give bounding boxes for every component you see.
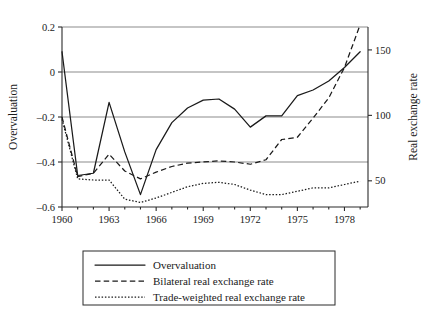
x-tick-label: 1963 xyxy=(99,214,120,225)
x-tick-label: 1966 xyxy=(146,214,167,225)
y2-axis-title: Real exchange rate xyxy=(407,73,420,160)
y2-tick-label: 50 xyxy=(375,175,386,186)
series-line-solid xyxy=(62,52,360,195)
chart-legend: OvervaluationBilateral real exchange rat… xyxy=(83,251,335,305)
legend-label: Bilateral real exchange rate xyxy=(153,275,274,287)
data-series xyxy=(62,25,360,203)
legend-label: Overvaluation xyxy=(153,259,216,271)
y2-tick-label: 150 xyxy=(375,45,391,56)
y2-tick-label: 100 xyxy=(375,110,391,121)
y-tick-label: –0.6 xyxy=(36,202,55,213)
x-tick-label: 1978 xyxy=(334,214,355,225)
x-tick-label: 1975 xyxy=(287,214,308,225)
x-tick-label: 1972 xyxy=(240,214,261,225)
chart-figure: 19601963196619691972197519780.20–0.2–0.4… xyxy=(0,0,434,311)
y-tick-label: –0.4 xyxy=(36,157,56,168)
gridlines xyxy=(62,27,368,162)
y-tick-label: –0.2 xyxy=(36,112,55,123)
x-tick-label: 1960 xyxy=(52,214,73,225)
y-tick-label: 0.2 xyxy=(42,22,55,33)
legend-label: Trade-weighted real exchange rate xyxy=(153,291,305,303)
axis-tick-labels: 19601963196619691972197519780.20–0.2–0.4… xyxy=(36,22,391,225)
series-line-dotted xyxy=(62,119,360,202)
y-tick-label: 0 xyxy=(50,67,55,78)
series-line-dashed xyxy=(62,25,360,179)
y-axis-title: Overvaluation xyxy=(7,84,19,150)
x-tick-label: 1969 xyxy=(193,214,214,225)
line-chart: 19601963196619691972197519780.20–0.2–0.4… xyxy=(0,0,434,311)
